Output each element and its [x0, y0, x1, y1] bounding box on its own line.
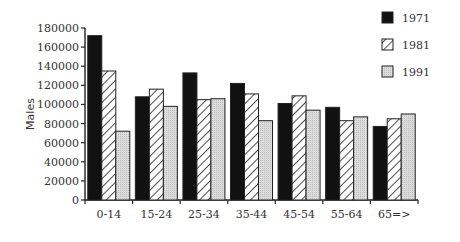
bar-1991-55-64 — [354, 117, 368, 200]
bar-1971-45-54 — [278, 103, 292, 200]
y-axis: 0200004000060000800001000001200001400001… — [37, 22, 85, 207]
bar-1991-25-34 — [211, 99, 225, 200]
y-tick-label: 60000 — [44, 137, 79, 150]
bar-1981-65=> — [387, 119, 401, 200]
legend: 197119811991 — [382, 12, 430, 79]
y-axis-label: Males — [24, 98, 37, 130]
x-tick-label: 0-14 — [96, 208, 121, 221]
y-tick-label: 160000 — [37, 41, 79, 54]
bar-1991-0-14 — [116, 131, 130, 200]
bar-1991-35-44 — [259, 121, 273, 200]
bar-1971-15-24 — [135, 97, 149, 200]
legend-label: 1981 — [402, 39, 430, 52]
y-tick-label: 100000 — [37, 98, 79, 111]
bar-1981-15-24 — [149, 89, 163, 200]
x-tick-label: 35-44 — [236, 208, 268, 221]
bar-1991-45-54 — [306, 110, 320, 200]
bar-1991-15-24 — [163, 106, 177, 200]
legend-label: 1971 — [402, 12, 430, 25]
bar-1981-0-14 — [102, 71, 116, 200]
legend-swatch-1991 — [382, 66, 393, 77]
bar-chart: 0200004000060000800001000001200001400001… — [0, 0, 460, 242]
y-tick-label: 20000 — [44, 175, 79, 188]
legend-swatch-1981 — [382, 39, 393, 50]
bar-1971-25-34 — [183, 73, 197, 200]
bars — [88, 36, 415, 200]
x-axis: 0-1415-2425-3435-4445-5455-6465=> — [85, 200, 418, 221]
x-tick-label: 15-24 — [140, 208, 172, 221]
bar-1991-65=> — [401, 114, 415, 200]
bar-1981-35-44 — [245, 94, 259, 200]
bar-1971-35-44 — [231, 83, 245, 200]
bar-1971-65=> — [373, 126, 387, 200]
legend-swatch-1971 — [382, 12, 393, 23]
x-tick-label: 65=> — [378, 208, 410, 221]
x-tick-label: 45-54 — [283, 208, 315, 221]
x-tick-label: 55-64 — [331, 208, 363, 221]
y-tick-label: 0 — [72, 194, 79, 207]
bar-1981-25-34 — [197, 100, 211, 200]
y-tick-label: 80000 — [44, 118, 79, 131]
bar-1971-55-64 — [326, 107, 340, 200]
y-tick-label: 40000 — [44, 156, 79, 169]
y-tick-label: 140000 — [37, 60, 79, 73]
x-tick-label: 25-34 — [188, 208, 220, 221]
bar-1981-45-54 — [292, 96, 306, 200]
bar-1981-55-64 — [340, 121, 354, 200]
bar-1971-0-14 — [88, 36, 102, 200]
y-tick-label: 120000 — [37, 79, 79, 92]
legend-label: 1991 — [402, 66, 430, 79]
y-tick-label: 180000 — [37, 22, 79, 35]
